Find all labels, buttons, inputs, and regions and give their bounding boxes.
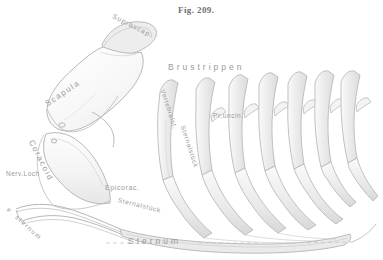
rib-7 (341, 71, 378, 201)
figure-caption: Fig. 209. (178, 5, 214, 15)
rib-2 (196, 78, 253, 235)
uncinate-process-4 (274, 102, 289, 116)
rib-4 (259, 73, 316, 230)
coracoid-shape (44, 133, 111, 204)
uncinate-process-7 (356, 98, 371, 112)
scapula-foramen (59, 123, 65, 127)
label-sternum: Sternum (128, 236, 181, 246)
label-epicoracoid: Epicorac. (105, 184, 140, 191)
uncinate-process-3 (244, 104, 259, 118)
rib-3 (229, 75, 286, 233)
anatomical-figure (0, 0, 383, 260)
label-thoracic-ribs: Brustrippen (168, 62, 244, 72)
coracoid-foramen (51, 139, 56, 143)
label-nerve-foramen: Nerv.Loch (6, 170, 40, 177)
label-uncinate-process: Pr.uncin. (213, 112, 244, 119)
